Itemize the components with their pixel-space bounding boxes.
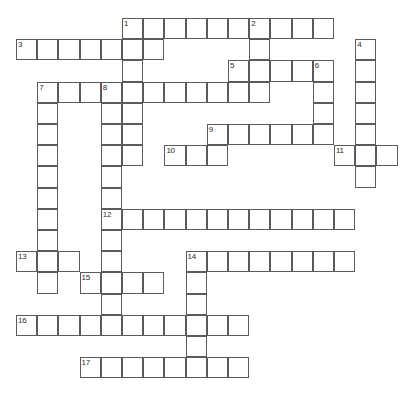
- crossword-cell[interactable]: [80, 39, 101, 60]
- crossword-cell[interactable]: [164, 18, 185, 39]
- crossword-cell[interactable]: [186, 294, 207, 315]
- crossword-cell[interactable]: [270, 60, 291, 81]
- crossword-cell[interactable]: [228, 82, 249, 103]
- crossword-cell[interactable]: [58, 315, 79, 336]
- crossword-cell[interactable]: [101, 39, 122, 60]
- crossword-grid[interactable]: 1234567891011121314151617: [0, 0, 412, 393]
- crossword-cell[interactable]: [80, 357, 101, 378]
- crossword-cell[interactable]: [37, 315, 58, 336]
- crossword-cell[interactable]: [101, 357, 122, 378]
- crossword-cell[interactable]: [143, 272, 164, 293]
- crossword-cell[interactable]: [37, 188, 58, 209]
- crossword-cell[interactable]: [80, 82, 101, 103]
- crossword-cell[interactable]: [101, 82, 122, 103]
- crossword-cell[interactable]: [355, 166, 376, 187]
- crossword-cell[interactable]: [270, 209, 291, 230]
- crossword-cell[interactable]: [122, 103, 143, 124]
- crossword-cell[interactable]: [313, 60, 334, 81]
- crossword-cell[interactable]: [37, 230, 58, 251]
- crossword-cell[interactable]: [80, 272, 101, 293]
- crossword-cell[interactable]: [122, 60, 143, 81]
- crossword-cell[interactable]: [355, 82, 376, 103]
- crossword-cell[interactable]: [122, 82, 143, 103]
- crossword-cell[interactable]: [186, 251, 207, 272]
- crossword-cell[interactable]: [355, 39, 376, 60]
- crossword-cell[interactable]: [101, 230, 122, 251]
- crossword-cell[interactable]: [164, 357, 185, 378]
- crossword-cell[interactable]: [228, 251, 249, 272]
- crossword-cell[interactable]: [355, 124, 376, 145]
- crossword-cell[interactable]: [58, 82, 79, 103]
- crossword-cell[interactable]: [228, 18, 249, 39]
- crossword-cell[interactable]: [143, 39, 164, 60]
- crossword-cell[interactable]: [228, 209, 249, 230]
- crossword-cell[interactable]: [376, 145, 397, 166]
- crossword-cell[interactable]: [355, 103, 376, 124]
- crossword-cell[interactable]: [249, 18, 270, 39]
- crossword-cell[interactable]: [249, 209, 270, 230]
- crossword-cell[interactable]: [122, 145, 143, 166]
- crossword-cell[interactable]: [101, 124, 122, 145]
- crossword-cell[interactable]: [292, 60, 313, 81]
- crossword-cell[interactable]: [313, 82, 334, 103]
- crossword-cell[interactable]: [313, 251, 334, 272]
- crossword-cell[interactable]: [292, 209, 313, 230]
- crossword-cell[interactable]: [228, 124, 249, 145]
- crossword-cell[interactable]: [207, 251, 228, 272]
- crossword-cell[interactable]: [249, 82, 270, 103]
- crossword-cell[interactable]: [16, 251, 37, 272]
- crossword-cell[interactable]: [122, 39, 143, 60]
- crossword-cell[interactable]: [186, 209, 207, 230]
- crossword-cell[interactable]: [37, 82, 58, 103]
- crossword-cell[interactable]: [37, 209, 58, 230]
- crossword-cell[interactable]: [101, 188, 122, 209]
- crossword-cell[interactable]: [207, 315, 228, 336]
- crossword-cell[interactable]: [313, 18, 334, 39]
- crossword-cell[interactable]: [101, 166, 122, 187]
- crossword-cell[interactable]: [122, 18, 143, 39]
- crossword-cell[interactable]: [186, 336, 207, 357]
- crossword-cell[interactable]: [186, 145, 207, 166]
- crossword-cell[interactable]: [101, 209, 122, 230]
- crossword-cell[interactable]: [207, 357, 228, 378]
- crossword-cell[interactable]: [249, 251, 270, 272]
- crossword-cell[interactable]: [228, 60, 249, 81]
- crossword-cell[interactable]: [207, 18, 228, 39]
- crossword-cell[interactable]: [122, 357, 143, 378]
- crossword-cell[interactable]: [270, 251, 291, 272]
- crossword-cell[interactable]: [122, 272, 143, 293]
- crossword-cell[interactable]: [249, 60, 270, 81]
- crossword-cell[interactable]: [186, 272, 207, 293]
- crossword-cell[interactable]: [186, 18, 207, 39]
- crossword-cell[interactable]: [80, 315, 101, 336]
- crossword-cell[interactable]: [355, 60, 376, 81]
- crossword-cell[interactable]: [101, 272, 122, 293]
- crossword-cell[interactable]: [313, 209, 334, 230]
- crossword-cell[interactable]: [249, 39, 270, 60]
- crossword-cell[interactable]: [207, 82, 228, 103]
- crossword-cell[interactable]: [101, 294, 122, 315]
- crossword-cell[interactable]: [334, 145, 355, 166]
- crossword-cell[interactable]: [143, 18, 164, 39]
- crossword-cell[interactable]: [228, 357, 249, 378]
- crossword-cell[interactable]: [37, 145, 58, 166]
- crossword-cell[interactable]: [37, 124, 58, 145]
- crossword-cell[interactable]: [334, 251, 355, 272]
- crossword-cell[interactable]: [355, 145, 376, 166]
- crossword-cell[interactable]: [292, 18, 313, 39]
- crossword-cell[interactable]: [164, 209, 185, 230]
- crossword-cell[interactable]: [16, 39, 37, 60]
- crossword-cell[interactable]: [101, 251, 122, 272]
- crossword-cell[interactable]: [37, 103, 58, 124]
- crossword-cell[interactable]: [313, 124, 334, 145]
- crossword-cell[interactable]: [58, 39, 79, 60]
- crossword-cell[interactable]: [270, 18, 291, 39]
- crossword-cell[interactable]: [37, 39, 58, 60]
- crossword-cell[interactable]: [313, 103, 334, 124]
- crossword-cell[interactable]: [143, 209, 164, 230]
- crossword-cell[interactable]: [292, 124, 313, 145]
- crossword-cell[interactable]: [249, 124, 270, 145]
- crossword-cell[interactable]: [292, 251, 313, 272]
- crossword-cell[interactable]: [37, 166, 58, 187]
- crossword-cell[interactable]: [207, 124, 228, 145]
